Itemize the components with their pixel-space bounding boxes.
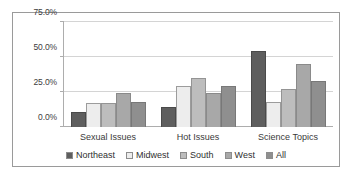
bar-sexual-issues-south[interactable] xyxy=(101,103,116,127)
legend-item-all[interactable]: All xyxy=(266,150,286,160)
legend-swatch-northeast xyxy=(66,152,73,159)
legend-item-midwest[interactable]: Midwest xyxy=(126,150,169,160)
y-axis-tick-label: 0.0% xyxy=(38,112,57,122)
bar-science-topics-west[interactable] xyxy=(296,64,311,127)
y-axis-tick-label: 50.0% xyxy=(33,42,57,52)
bar-sexual-issues-west[interactable] xyxy=(116,93,131,127)
legend-swatch-midwest xyxy=(126,152,133,159)
bar-sexual-issues-northeast[interactable] xyxy=(71,112,86,127)
bar-hot-issues-west[interactable] xyxy=(206,93,221,127)
plot-area: 0.0%25.0%50.0%75.0% xyxy=(63,22,333,127)
bar-science-topics-south[interactable] xyxy=(281,89,296,127)
x-axis-label-hot-issues: Hot Issues xyxy=(153,129,243,145)
legend-label: Northeast xyxy=(76,150,115,160)
chart-frame: 0.0%25.0%50.0%75.0% Sexual IssuesHot Iss… xyxy=(12,12,340,167)
legend-item-northeast[interactable]: Northeast xyxy=(66,150,115,160)
bar-science-topics-northeast[interactable] xyxy=(251,51,266,127)
legend-label: Midwest xyxy=(136,150,169,160)
legend-label: South xyxy=(190,150,214,160)
y-axis-tick-label: 25.0% xyxy=(33,77,57,87)
legend-item-west[interactable]: West xyxy=(225,150,255,160)
bar-group-sexual-issues xyxy=(64,22,154,127)
bar-hot-issues-all[interactable] xyxy=(221,86,236,127)
bar-sexual-issues-all[interactable] xyxy=(131,102,146,127)
bar-science-topics-midwest[interactable] xyxy=(266,102,281,127)
x-axis-labels: Sexual IssuesHot IssuesScience Topics xyxy=(63,129,333,145)
bar-science-topics-all[interactable] xyxy=(311,81,326,127)
bar-hot-issues-midwest[interactable] xyxy=(176,86,191,127)
bar-group-science-topics xyxy=(243,22,333,127)
bar-group-hot-issues xyxy=(154,22,244,127)
legend-swatch-west xyxy=(225,152,232,159)
bars-layer xyxy=(64,22,333,127)
legend-label: All xyxy=(276,150,286,160)
x-axis-label-sexual-issues: Sexual Issues xyxy=(63,129,153,145)
bar-hot-issues-northeast[interactable] xyxy=(161,107,176,127)
bar-sexual-issues-midwest[interactable] xyxy=(86,103,101,127)
y-axis-tick-label: 75.0% xyxy=(33,7,57,17)
legend-label: West xyxy=(235,150,255,160)
legend-item-south[interactable]: South xyxy=(180,150,214,160)
chart-legend: NortheastMidwestSouthWestAll xyxy=(13,147,339,163)
legend-swatch-all xyxy=(266,152,273,159)
bar-hot-issues-south[interactable] xyxy=(191,78,206,127)
legend-swatch-south xyxy=(180,152,187,159)
x-axis-label-science-topics: Science Topics xyxy=(243,129,333,145)
